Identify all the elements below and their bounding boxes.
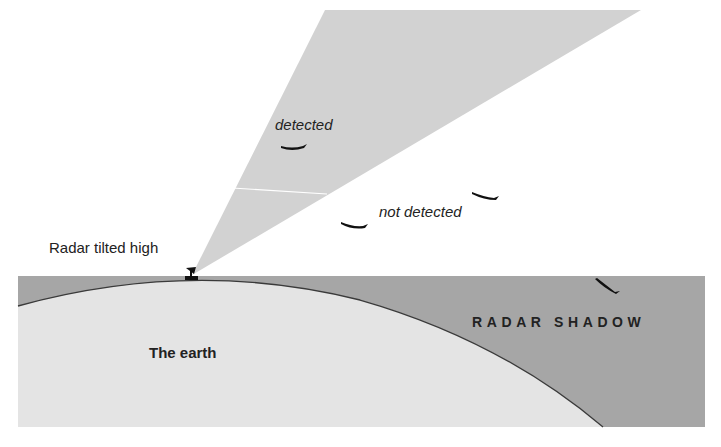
radar-beam — [192, 10, 641, 275]
label-radar-shadow: RADAR SHADOW — [472, 314, 645, 330]
label-the-earth: The earth — [149, 344, 217, 361]
label-not-detected: not detected — [379, 203, 462, 220]
label-radar-tilted-high: Radar tilted high — [49, 239, 158, 256]
aircraft-not-detected-1-icon — [341, 222, 368, 229]
radar-diagram — [0, 0, 721, 447]
aircraft-not-detected-2-icon — [472, 192, 499, 200]
label-detected: detected — [275, 116, 333, 133]
